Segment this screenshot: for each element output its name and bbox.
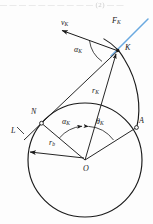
label-tangent-line-L: L — [11, 127, 15, 135]
label-base-radius-rb: rb — [49, 139, 55, 148]
label-point-O: O — [83, 165, 89, 173]
label-angle-alphaK-at-K: αK — [74, 46, 82, 55]
label-alphaK-center-subscript: K — [66, 120, 70, 126]
point-marker-N — [40, 121, 44, 125]
velocity-vector-vK — [62, 31, 117, 51]
label-alphaK-top-subscript: K — [78, 48, 82, 54]
angle-arc-thetaK-at-O — [89, 126, 114, 140]
label-thetaK-subscript: K — [100, 120, 104, 126]
label-angle-thetaK: θK — [96, 118, 104, 127]
involute-diagram — [0, 0, 153, 224]
label-velocity-vK: vK — [61, 19, 68, 28]
tangent-tick-L — [17, 127, 24, 134]
label-rK-subscript: K — [95, 89, 99, 95]
label-point-K: K — [125, 44, 130, 52]
figure-root: — — — — — — — — — — (2) — — — [0, 0, 153, 224]
label-radius-rK: rK — [92, 87, 99, 96]
label-point-A: A — [139, 117, 144, 125]
label-force-FK: FK — [112, 17, 121, 26]
label-angle-alphaK-at-O: αK — [62, 118, 70, 127]
label-point-N: N — [31, 108, 36, 116]
radius-OK — [85, 54, 116, 160]
point-marker-A — [135, 126, 139, 130]
involute-curve — [119, 51, 139, 127]
angle-arc-alphaK-at-O — [59, 126, 82, 138]
angle-arc-alphaK-at-K — [90, 41, 103, 62]
label-rb-subscript: b — [52, 141, 55, 147]
point-marker-K — [116, 49, 119, 52]
label-velocity-subscript: K — [65, 21, 69, 27]
label-force-subscript: K — [117, 19, 121, 25]
